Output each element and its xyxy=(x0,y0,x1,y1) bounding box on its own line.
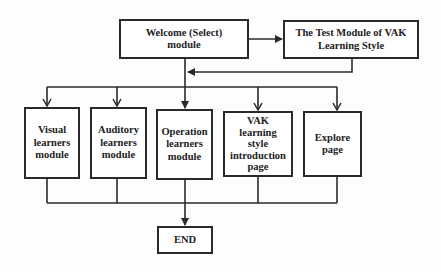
node-label: Welcome (Select) xyxy=(146,27,223,40)
node-label: END xyxy=(174,234,196,247)
node-label: Auditory xyxy=(98,124,139,137)
node-visual-learners-module: Visual learners module xyxy=(24,107,80,179)
node-label: Operation xyxy=(161,126,207,139)
node-vak-intro-page: VAK learning style introduction page xyxy=(223,111,293,177)
node-vak-test-module: The Test Module of VAK Learning Style xyxy=(283,20,419,59)
node-label: module xyxy=(98,149,139,162)
node-label: page xyxy=(230,161,286,173)
node-end: END xyxy=(157,226,213,254)
node-label: learners xyxy=(34,137,71,150)
node-label: learners xyxy=(161,138,207,151)
node-auditory-learners-module: Auditory learners module xyxy=(90,107,147,179)
node-label: module xyxy=(146,39,223,52)
node-welcome-module: Welcome (Select) module xyxy=(119,19,249,59)
node-label: page xyxy=(315,144,350,157)
arrow-test-return xyxy=(188,59,352,72)
node-label: Visual xyxy=(34,124,71,137)
node-label: Explore xyxy=(315,132,350,145)
node-label: learning xyxy=(230,127,286,139)
flowchart-canvas: Welcome (Select) module The Test Module … xyxy=(0,0,441,272)
node-label: VAK xyxy=(230,115,286,127)
node-label: style xyxy=(230,138,286,150)
node-label: module xyxy=(34,149,71,162)
node-label: The Test Module of VAK xyxy=(295,27,406,40)
node-label: module xyxy=(161,151,207,164)
node-label: introduction xyxy=(230,150,286,162)
node-label: Learning Style xyxy=(295,40,406,53)
node-explore-page: Explore page xyxy=(303,111,362,177)
node-operation-learners-module: Operation learners module xyxy=(156,109,213,180)
node-label: learners xyxy=(98,137,139,150)
